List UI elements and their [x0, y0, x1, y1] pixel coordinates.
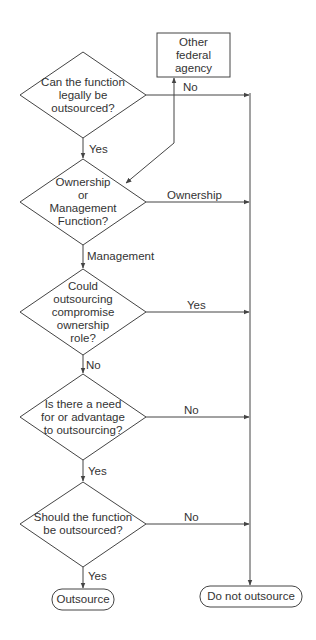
decision-compromise: Could outsourcing compromise ownership r… — [30, 279, 136, 345]
node-line: outsourcing — [52, 293, 115, 306]
node-line: federal — [175, 49, 212, 62]
edge-label-d4-no: No — [184, 404, 199, 417]
decision-need: Is there a need for or advantage to outs… — [30, 396, 136, 438]
node-line: compromise — [52, 306, 115, 319]
terminal-label: Do not outsource — [207, 590, 295, 603]
node-line: Other — [175, 36, 212, 49]
decision-should: Should the function be outsourced? — [26, 510, 140, 538]
node-line: Could — [52, 280, 115, 293]
node-line: agency — [175, 62, 212, 75]
edge-label-d1-yes: Yes — [89, 143, 108, 156]
outsource-terminal: Outsource — [52, 589, 114, 610]
do-not-outsource-terminal: Do not outsource — [200, 586, 302, 607]
decision-legal: Can the function legally be outsourced? — [30, 74, 136, 116]
node-line: Function? — [49, 215, 116, 228]
node-line: Should the function — [34, 511, 132, 524]
decision-ownership: Ownership or Management Function? — [30, 175, 136, 229]
edge-label-d2-ownership: Ownership — [167, 189, 222, 202]
edge-label-d2-management: Management — [87, 250, 154, 263]
terminal-label: Outsource — [56, 593, 109, 606]
node-line: or — [49, 189, 116, 202]
other-agency: Other federal agency — [157, 34, 230, 76]
edge-label-d3-no: No — [86, 359, 101, 372]
node-line: legally be — [41, 89, 125, 102]
node-line: outsourced? — [41, 102, 125, 115]
edge-label-d5-yes: Yes — [88, 570, 107, 583]
node-line: Ownership — [49, 176, 116, 189]
node-line: Can the function — [41, 76, 125, 89]
node-line: Management — [49, 202, 116, 215]
edge-label-d1-no: No — [183, 81, 198, 94]
node-line: to outsourcing? — [41, 424, 125, 437]
edge-label-d3-yes: Yes — [187, 299, 206, 312]
node-line: role? — [52, 332, 115, 345]
node-line: be outsourced? — [34, 524, 132, 537]
node-line: Is there a need — [41, 398, 125, 411]
node-line: ownership — [52, 319, 115, 332]
edge-label-d4-yes: Yes — [88, 465, 107, 478]
edge-label-d5-no: No — [184, 511, 199, 524]
node-line: for or advantage — [41, 411, 125, 424]
